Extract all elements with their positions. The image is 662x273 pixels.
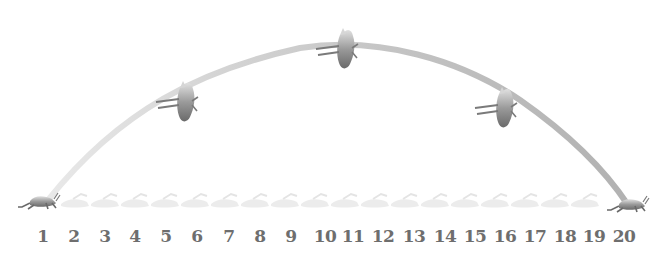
number-label: 3: [99, 226, 110, 246]
grasshopper-landing-icon: [607, 196, 649, 212]
grasshopper-peak-icon: [316, 28, 358, 68]
number-label: 18: [554, 226, 577, 246]
number-label: 14: [434, 226, 457, 246]
number-label: 6: [191, 226, 202, 246]
number-label: 16: [494, 226, 517, 246]
number-label: 15: [464, 226, 487, 246]
number-label: 8: [254, 226, 265, 246]
number-label: 19: [583, 226, 606, 246]
number-label: 13: [403, 226, 426, 246]
number-label: 11: [342, 226, 365, 246]
number-label: 7: [223, 226, 234, 246]
number-line-labels: 1 2 3 4 5 6 7 8 9 10 11 12 13 14 15 16 1…: [0, 226, 662, 250]
grasshopper-descending-icon: [475, 87, 517, 127]
number-label: 20: [613, 226, 636, 246]
number-label: 12: [372, 226, 395, 246]
number-label: 4: [129, 226, 140, 246]
number-label: 9: [285, 226, 296, 246]
number-label: 10: [314, 226, 337, 246]
grasshopper-rising-icon: [156, 81, 198, 121]
number-label: 1: [37, 226, 48, 246]
number-label: 5: [160, 226, 171, 246]
number-label: 2: [68, 226, 79, 246]
ghost-hops-row: [61, 194, 599, 208]
number-label: 17: [524, 226, 547, 246]
jump-arc: [48, 45, 628, 205]
